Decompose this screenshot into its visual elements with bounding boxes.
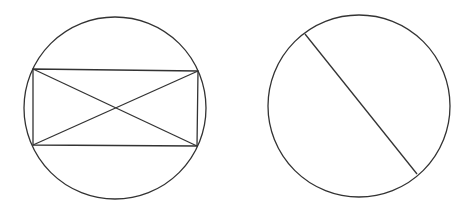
figure-right [268, 15, 450, 197]
figure-left [24, 17, 206, 199]
right-circle [268, 15, 450, 197]
diagram-canvas [0, 0, 472, 224]
rectangle-diagonal-2 [33, 71, 198, 145]
circle-chord [305, 34, 417, 174]
